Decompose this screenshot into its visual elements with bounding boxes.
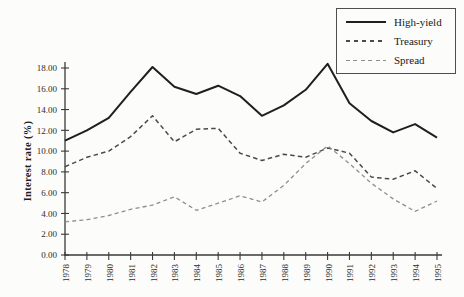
y-axis-title: Interest rate (%) — [22, 121, 33, 202]
x-tick-label: 1992 — [367, 264, 377, 282]
x-tick-label: 1993 — [389, 264, 399, 283]
legend-label: High-yield — [394, 16, 442, 28]
x-tick-label: 1991 — [345, 264, 355, 282]
x-tick-label: 1995 — [433, 264, 443, 283]
y-tick-label: 2.00 — [41, 229, 57, 239]
x-tick-label: 1981 — [127, 264, 137, 282]
x-tick-label: 1979 — [83, 264, 93, 283]
y-tick-label: 10.00 — [37, 146, 58, 156]
y-tick-label: 12.00 — [37, 126, 58, 136]
x-tick-label: 1982 — [149, 264, 159, 282]
y-tick-label: 0.00 — [41, 250, 57, 260]
x-tick-label: 1986 — [236, 264, 246, 283]
x-tick-label: 1989 — [302, 264, 312, 283]
line-spread — [65, 146, 437, 222]
x-tick-label: 1987 — [258, 264, 268, 283]
x-tick-label: 1983 — [170, 264, 180, 283]
x-tick-label: 1994 — [411, 264, 421, 283]
x-tick-label: 1985 — [214, 264, 224, 283]
y-tick-label: 16.00 — [37, 84, 58, 94]
legend-item-spread: Spread — [346, 54, 455, 66]
legend-item-high-yield: High-yield — [346, 16, 455, 28]
y-tick-label: 14.00 — [37, 105, 58, 115]
legend-item-treasury: Treasury — [346, 35, 455, 47]
x-tick-label: 1988 — [280, 264, 290, 283]
line-high-yield — [65, 64, 437, 141]
y-tick-label: 18.00 — [37, 63, 58, 73]
legend-swatch-solid-line — [346, 21, 386, 23]
legend-swatch-dashed-line — [346, 40, 386, 42]
x-tick-label: 1984 — [192, 264, 202, 283]
figure: 0.002.004.006.008.0010.0012.0014.0016.00… — [0, 0, 464, 297]
x-tick-label: 1990 — [324, 264, 334, 283]
y-tick-label: 6.00 — [41, 188, 57, 198]
y-tick-label: 4.00 — [41, 209, 57, 219]
legend-label: Treasury — [394, 35, 433, 47]
x-tick-label: 1980 — [105, 264, 115, 283]
legend-label: Spread — [394, 54, 425, 66]
x-tick-label: 1978 — [61, 264, 71, 283]
legend-box: High-yield Treasury Spread — [336, 8, 456, 74]
legend-swatch-dashed-light-line — [346, 60, 386, 62]
y-tick-label: 8.00 — [41, 167, 57, 177]
